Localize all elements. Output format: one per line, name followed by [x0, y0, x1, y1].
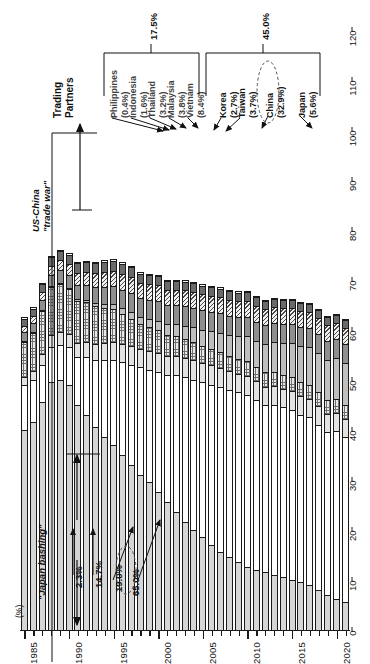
percent-label-0: 0: [347, 631, 358, 657]
segment-korea: [306, 386, 313, 400]
segment-japan: [199, 539, 206, 632]
percent-label-70: 70: [347, 281, 358, 307]
callout-pct-1: 14.7%: [93, 561, 104, 588]
year-tick-1986: [33, 631, 34, 636]
year-tick-1989: [60, 631, 61, 636]
segment-indonesia: [48, 259, 55, 268]
callout-label-indonesia: Indonesia(1.6%): [128, 76, 149, 118]
segment-korea: [146, 329, 153, 353]
year-tick-2017: [310, 631, 311, 636]
segment-taiwan: [306, 400, 313, 419]
segment-malaysia: [244, 318, 251, 338]
segment-thailand: [289, 310, 296, 326]
segment-malaysia: [315, 335, 322, 354]
segment-malaysia: [333, 340, 340, 359]
segment-japan: [280, 579, 287, 632]
segment-thailand: [155, 287, 162, 303]
segment-korea: [83, 304, 90, 344]
bar-2016: [297, 303, 304, 632]
year-tick-2004: [194, 631, 195, 636]
stacked-bar-plot: [20, 31, 350, 631]
segment-indonesia: [128, 269, 135, 279]
segment-china: [101, 361, 108, 439]
segment-vietnam: [253, 342, 260, 368]
year-tick-1991: [78, 631, 79, 636]
segment-indonesia: [66, 256, 73, 265]
callout-label-china: China(32.9%): [265, 86, 286, 118]
segment-philippines: [119, 263, 126, 266]
segment-malaysia: [164, 307, 171, 326]
segment-japan: [182, 524, 189, 632]
percent-label-120: 120: [347, 31, 358, 57]
segment-china: [21, 386, 28, 431]
segment-china: [342, 439, 349, 604]
segment-china: [244, 396, 251, 569]
segment-taiwan: [164, 358, 171, 377]
callout-pct-2: 19.0%: [113, 565, 124, 592]
segment-philippines: [92, 262, 99, 265]
year-tick-2002: [176, 631, 177, 636]
segment-japan: [146, 484, 153, 632]
segment-vietnam: [110, 306, 117, 311]
segment-china: [74, 359, 81, 407]
segment-korea: [92, 308, 99, 346]
segment-vietnam: [155, 322, 162, 332]
segment-philippines: [173, 280, 180, 283]
segment-taiwan: [297, 398, 304, 417]
segment-china: [226, 391, 233, 559]
bar-2018: [315, 309, 322, 631]
segment-japan: [173, 514, 180, 632]
segment-japan: [208, 546, 215, 631]
year-tick-2013: [274, 631, 275, 636]
segment-japan: [21, 431, 28, 631]
segment-thailand: [173, 291, 180, 307]
segment-taiwan: [235, 375, 242, 394]
segment-vietnam: [190, 329, 197, 344]
segment-philippines: [199, 285, 206, 288]
segment-vietnam: [289, 345, 296, 379]
segment-malaysia: [271, 325, 278, 344]
segment-china: [110, 361, 117, 446]
segment-indonesia: [182, 283, 189, 292]
segment-korea: [110, 311, 117, 344]
bar-2009: [235, 292, 242, 632]
percent-label-20: 20: [347, 531, 358, 557]
segment-malaysia: [280, 325, 287, 344]
segment-taiwan: [48, 336, 55, 349]
segment-vietnam: [128, 313, 135, 320]
segment-malaysia: [182, 308, 189, 328]
segment-japan: [306, 586, 313, 631]
segment-thailand: [199, 296, 206, 312]
segment-korea: [280, 376, 287, 390]
year-tick-1999: [149, 631, 150, 636]
segment-malaysia: [173, 307, 180, 326]
segment-malaysia: [190, 309, 197, 329]
segment-philippines: [289, 300, 296, 302]
segment-vietnam: [74, 300, 81, 302]
segment-thailand: [217, 299, 224, 315]
segment-china: [182, 379, 189, 524]
segment-china: [262, 406, 269, 574]
segment-thailand: [57, 262, 64, 272]
segment-indonesia: [289, 302, 296, 310]
segment-japan: [217, 554, 224, 632]
bar-2011: [253, 297, 260, 632]
segment-taiwan: [92, 345, 99, 361]
segment-indonesia: [83, 264, 90, 274]
year-label-2010: 2010: [251, 642, 262, 664]
segment-indonesia: [39, 286, 46, 294]
segment-philippines: [128, 266, 135, 269]
year-tick-2019: [328, 631, 329, 636]
segment-philippines: [30, 308, 37, 311]
bar-2019: [324, 316, 331, 631]
segment-vietnam: [271, 344, 278, 374]
bar-1985: [21, 318, 28, 632]
segment-philippines: [235, 292, 242, 295]
segment-vietnam: [199, 331, 206, 347]
segment-taiwan: [119, 346, 126, 364]
percent-label-30: 30: [347, 481, 358, 507]
year-tick-2009: [239, 631, 240, 636]
segment-taiwan: [262, 388, 269, 406]
segment-philippines: [324, 316, 331, 318]
segment-vietnam: [119, 310, 126, 316]
